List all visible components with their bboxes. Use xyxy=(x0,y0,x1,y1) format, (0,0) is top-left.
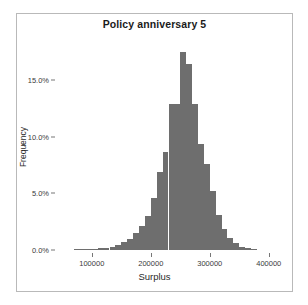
x-tick-label: 400000 xyxy=(256,259,281,268)
chart-screenshot: Policy anniversary 5 Frequency 0.0%5.0%1… xyxy=(0,0,308,305)
y-tick-label: 0.0% xyxy=(32,246,49,255)
y-tick-mark xyxy=(51,193,55,194)
chart-title: Policy anniversary 5 xyxy=(16,18,293,30)
y-tick-label: 5.0% xyxy=(32,189,49,198)
x-tick-mark xyxy=(151,253,152,257)
x-tick-label: 200000 xyxy=(138,259,163,268)
y-tick-mark xyxy=(51,250,55,251)
x-tick-label: 300000 xyxy=(197,259,222,268)
y-axis: 0.0%5.0%10.0%15.0% xyxy=(0,44,57,250)
x-tick-mark xyxy=(210,253,211,257)
y-tick-mark xyxy=(51,136,55,137)
x-tick-mark xyxy=(269,253,270,257)
plot-area xyxy=(57,44,280,250)
x-axis-label: Surplus xyxy=(16,271,293,282)
y-tick-label: 15.0% xyxy=(28,76,49,85)
histogram-bars xyxy=(57,44,280,250)
y-tick-label: 10.0% xyxy=(28,132,49,141)
x-tick-label: 100000 xyxy=(79,259,104,268)
x-tick-mark xyxy=(92,253,93,257)
y-tick-mark xyxy=(51,80,55,81)
